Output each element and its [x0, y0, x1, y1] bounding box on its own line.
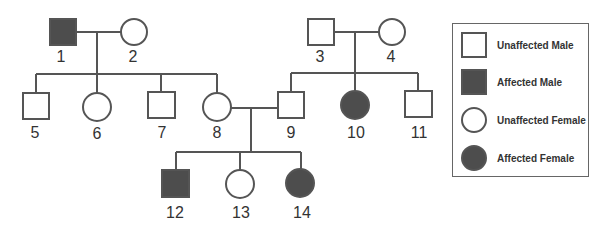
label-11: 11: [411, 124, 428, 141]
legend-label: Affected Male: [497, 77, 562, 88]
individual-1-affected-male: [50, 19, 76, 45]
individual-10-affected-female: [341, 91, 369, 119]
individual-9-unaffected-male: [278, 92, 304, 118]
individual-13-unaffected-female: [226, 170, 254, 198]
label-3: 3: [316, 48, 325, 65]
unaffected-male-square-icon: [461, 32, 487, 58]
individual-7-unaffected-male: [148, 92, 175, 118]
individual-12-affected-male: [162, 170, 189, 197]
affected-female-circle-icon: [461, 145, 487, 171]
legend-item-affected-male: Affected Male: [461, 68, 562, 96]
legend-label: Unaffected Female: [497, 115, 586, 126]
legend-item-unaffected-female: Unaffected Female: [461, 106, 586, 134]
affected-male-square-icon: [461, 69, 487, 95]
label-13: 13: [232, 204, 250, 221]
legend-label: Affected Female: [497, 153, 574, 164]
individual-5-unaffected-male: [23, 93, 49, 119]
individual-11-unaffected-male: [405, 91, 432, 117]
individual-8-unaffected-female: [203, 93, 231, 121]
label-8: 8: [213, 124, 222, 141]
label-7: 7: [158, 124, 167, 141]
legend-item-affected-female: Affected Female: [461, 144, 574, 172]
individual-14-affected-female: [286, 169, 314, 197]
label-9: 9: [287, 124, 296, 141]
legend-label: Unaffected Male: [497, 40, 574, 51]
legend-item-unaffected-male: Unaffected Male: [461, 31, 574, 59]
label-4: 4: [387, 48, 396, 65]
label-1: 1: [57, 48, 66, 65]
individual-4-unaffected-female: [379, 19, 405, 45]
unaffected-female-circle-icon: [461, 107, 487, 133]
label-6: 6: [93, 125, 102, 142]
label-2: 2: [129, 48, 138, 65]
label-14: 14: [293, 204, 311, 221]
label-5: 5: [31, 124, 40, 141]
label-10: 10: [347, 124, 365, 141]
label-12: 12: [166, 204, 184, 221]
individual-3-unaffected-male: [308, 19, 334, 45]
individual-6-unaffected-female: [83, 93, 111, 121]
individual-2-unaffected-female: [121, 19, 147, 45]
legend-box: Unaffected Male Affected Male Unaffected…: [452, 23, 589, 177]
